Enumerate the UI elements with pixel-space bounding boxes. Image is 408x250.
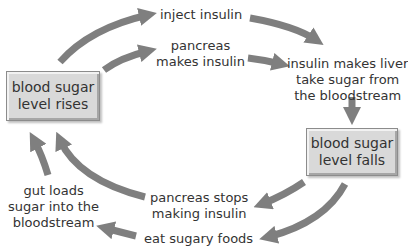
arrow-rises-to-pancreas <box>104 51 148 70</box>
arrow-falls-to-eat <box>268 184 345 237</box>
arrow-falls-to-stops <box>262 182 304 204</box>
label-insulin-makes-liver: insulin makes liver take sugar from the … <box>287 56 408 104</box>
label-eat-sugary-foods: eat sugary foods <box>144 231 253 247</box>
box-rises-line2: level rises <box>12 96 95 113</box>
arrow-pancreas-to-liver <box>248 58 281 64</box>
arrow-inject-to-liver <box>250 18 316 40</box>
box-blood-sugar-falls: blood sugar level falls <box>306 128 398 176</box>
arrow-gut-to-rises <box>34 140 48 175</box>
label-pancreas-makes-insulin: pancreas makes insulin <box>156 38 245 70</box>
box-blood-sugar-rises: blood sugar level rises <box>6 71 100 121</box>
label-pancreas-stops-insulin: pancreas stops making insulin <box>150 190 248 222</box>
label-gut-loads-sugar: gut loads sugar into the bloodstream <box>8 183 99 231</box>
label-inject-insulin: inject insulin <box>160 7 242 23</box>
box-rises-line1: blood sugar <box>12 79 95 96</box>
arrow-eat-to-gut <box>105 228 136 236</box>
box-falls-line1: blood sugar <box>311 135 394 152</box>
box-falls-line2: level falls <box>311 152 394 169</box>
